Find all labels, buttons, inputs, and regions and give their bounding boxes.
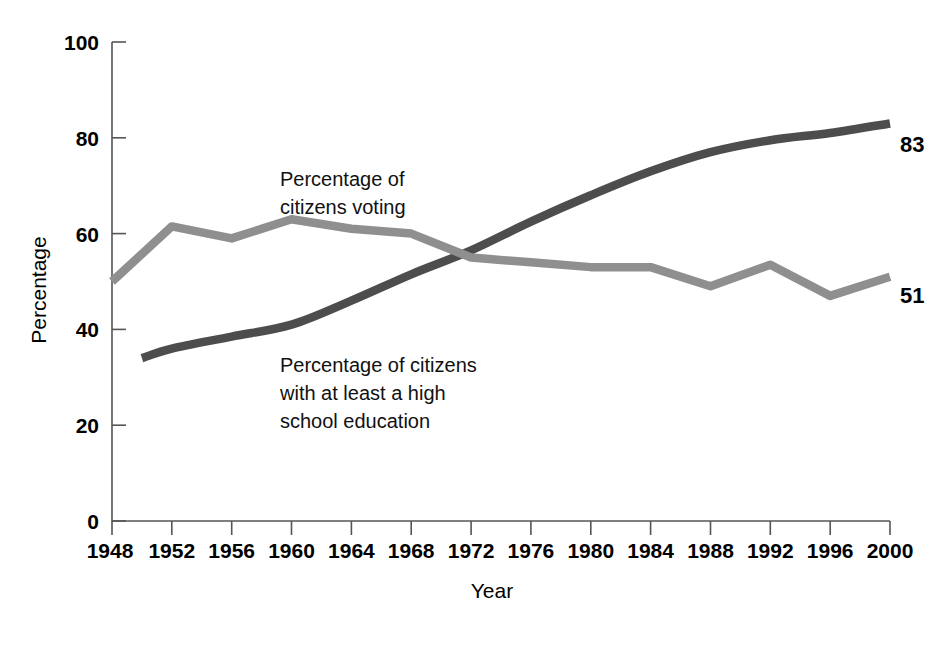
y-axis-title: Percentage [27, 236, 50, 343]
voting-annotation-line-2: citizens voting [280, 196, 406, 218]
x-tick-label-1964: 1964 [328, 539, 375, 562]
x-tick-label-1996: 1996 [807, 539, 854, 562]
y-tick-label-60: 60 [76, 223, 99, 246]
x-tick-label-1968: 1968 [388, 539, 435, 562]
chart-container: 100 80 60 40 20 0 Percentage [0, 0, 941, 646]
x-tick-label-1976: 1976 [508, 539, 555, 562]
line-chart: 100 80 60 40 20 0 Percentage [0, 0, 941, 646]
x-tick-label-1948: 1948 [87, 539, 134, 562]
y-tick-label-0: 0 [87, 510, 99, 533]
x-tick-label-1972: 1972 [448, 539, 495, 562]
education-annotation-line-1: Percentage of citizens [280, 354, 477, 376]
y-tick-label-100: 100 [64, 31, 99, 54]
x-tick-label-1988: 1988 [687, 539, 734, 562]
x-tick-label-1980: 1980 [567, 539, 614, 562]
x-axis-title: Year [471, 579, 513, 602]
education-annotation-line-2: with at least a high [279, 382, 446, 404]
voting-annotation-line-1: Percentage of [280, 168, 405, 190]
x-tick-label-1960: 1960 [268, 539, 315, 562]
x-tick-label-1984: 1984 [627, 539, 674, 562]
y-tick-label-20: 20 [76, 414, 99, 437]
y-tick-label-40: 40 [76, 318, 99, 341]
voting-end-value-label: 51 [900, 283, 924, 308]
x-tick-label-2000: 2000 [867, 539, 914, 562]
y-tick-label-80: 80 [76, 127, 99, 150]
education-annotation-line-3: school education [280, 410, 430, 432]
x-tick-label-1992: 1992 [747, 539, 794, 562]
x-tick-label-1956: 1956 [208, 539, 255, 562]
x-tick-label-1952: 1952 [148, 539, 195, 562]
education-end-value-label: 83 [900, 132, 924, 157]
